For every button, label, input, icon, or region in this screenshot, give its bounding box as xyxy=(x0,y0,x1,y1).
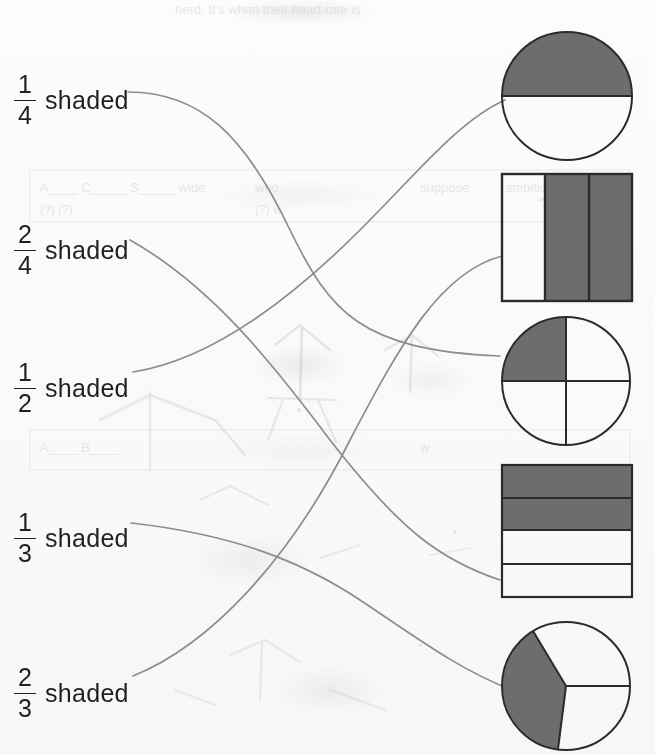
numerator: 1 xyxy=(15,72,35,99)
denominator: 3 xyxy=(15,540,35,567)
denominator: 2 xyxy=(15,390,35,417)
figure-circle-thirds xyxy=(500,620,633,753)
svg-text:(?) w: (?) w xyxy=(255,203,282,217)
connector-1-3[interactable] xyxy=(131,523,512,690)
svg-text:who: who xyxy=(254,180,279,195)
figure-circle-quarter xyxy=(500,315,632,447)
figure-circle-half xyxy=(500,30,634,162)
label-1-4: 1 4 shaded xyxy=(14,72,129,129)
denominator: 3 xyxy=(15,695,35,722)
svg-text:A____ C_____ S_____ wide: A____ C_____ S_____ wide xyxy=(40,180,206,195)
svg-text:(?) (?): (?) (?) xyxy=(40,203,73,217)
label-word: shaded xyxy=(45,236,129,265)
shaded-region xyxy=(502,32,632,96)
label-1-3: 1 3 shaded xyxy=(14,510,129,567)
connector-1-4[interactable] xyxy=(128,92,500,356)
fraction-2-3: 2 3 xyxy=(14,665,36,722)
numerator: 1 xyxy=(15,360,35,387)
label-word: shaded xyxy=(45,524,129,553)
svg-text:suppose: suppose xyxy=(420,180,469,195)
label-word: shaded xyxy=(45,679,129,708)
numerator: 2 xyxy=(15,222,35,249)
connector-2-3[interactable] xyxy=(133,256,502,676)
denominator: 4 xyxy=(15,252,35,279)
fraction-1-2: 1 2 xyxy=(14,360,36,417)
svg-text:herd. It's when their heart ra: herd. It's when their heart rate is xyxy=(175,2,361,17)
svg-text:A____ B____: A____ B____ xyxy=(40,440,120,455)
fraction-1-3: 1 3 xyxy=(14,510,36,567)
label-1-2: 1 2 shaded xyxy=(14,360,129,417)
label-2-4: 2 4 shaded xyxy=(14,222,129,279)
label-2-3: 2 3 shaded xyxy=(14,665,129,722)
fraction-2-4: 2 4 xyxy=(14,222,36,279)
connector-2-4[interactable] xyxy=(130,240,500,580)
fraction-1-4: 1 4 xyxy=(14,72,36,129)
label-word: shaded xyxy=(45,86,129,115)
label-word: shaded xyxy=(45,374,129,403)
shaded-region xyxy=(502,631,566,749)
figure-rect-quarters xyxy=(500,463,634,599)
svg-text:w: w xyxy=(419,440,430,455)
connector-1-2[interactable] xyxy=(133,100,505,372)
figure-rect-thirds xyxy=(500,172,634,303)
denominator: 4 xyxy=(15,102,35,129)
numerator: 1 xyxy=(15,510,35,537)
numerator: 2 xyxy=(15,665,35,692)
